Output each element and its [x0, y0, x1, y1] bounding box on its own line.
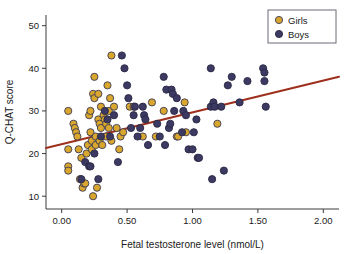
data-point[interactable] [91, 150, 98, 157]
data-point[interactable] [189, 146, 196, 153]
data-point[interactable] [214, 120, 221, 127]
data-point[interactable] [104, 116, 111, 123]
data-point[interactable] [156, 133, 163, 140]
data-point[interactable] [65, 107, 72, 114]
y-tick-label: 50 [28, 20, 39, 31]
data-point[interactable] [261, 77, 268, 84]
data-point[interactable] [120, 129, 127, 136]
data-point[interactable] [65, 167, 72, 174]
data-point[interactable] [75, 146, 82, 153]
legend-label-boys: Boys [288, 29, 309, 40]
data-point[interactable] [182, 112, 189, 119]
data-point[interactable] [95, 176, 102, 183]
data-point[interactable] [110, 103, 117, 110]
data-point[interactable] [108, 52, 115, 59]
legend-marker-girls[interactable] [275, 16, 282, 23]
data-point[interactable] [224, 82, 231, 89]
x-tick-label: 2.00 [314, 215, 333, 226]
data-point[interactable] [87, 107, 94, 114]
y-tick-label: 30 [28, 105, 39, 116]
data-point[interactable] [87, 163, 94, 170]
data-point[interactable] [142, 116, 149, 123]
data-point[interactable] [78, 176, 85, 183]
data-point[interactable] [137, 124, 144, 131]
data-point[interactable] [95, 90, 102, 97]
data-point[interactable] [178, 129, 185, 136]
legend-label-girls: Girls [288, 15, 308, 26]
y-tick-label: 20 [28, 148, 39, 159]
data-point[interactable] [130, 112, 137, 119]
legend: GirlsBoys [268, 10, 336, 43]
data-point[interactable] [91, 73, 98, 80]
data-point[interactable] [74, 133, 81, 140]
data-point[interactable] [97, 133, 104, 140]
data-point[interactable] [104, 82, 111, 89]
data-point[interactable] [161, 141, 168, 148]
data-point[interactable] [105, 124, 112, 131]
y-axis-title: Q-CHAT score [4, 79, 15, 144]
data-point[interactable] [139, 103, 146, 110]
data-point[interactable] [236, 99, 243, 106]
data-point[interactable] [160, 107, 167, 114]
data-point[interactable] [65, 146, 72, 153]
data-point[interactable] [99, 141, 106, 148]
x-tick-label: 0.00 [52, 215, 71, 226]
data-point[interactable] [207, 65, 214, 72]
data-point[interactable] [110, 112, 117, 119]
data-point[interactable] [125, 95, 132, 102]
data-point[interactable] [118, 52, 125, 59]
data-point[interactable] [167, 120, 174, 127]
data-point[interactable] [190, 129, 197, 136]
data-point[interactable] [154, 120, 161, 127]
data-point[interactable] [127, 124, 134, 131]
data-point[interactable] [228, 73, 235, 80]
data-point[interactable] [121, 65, 128, 72]
y-tick-label: 40 [28, 63, 39, 74]
data-point[interactable] [244, 77, 251, 84]
data-point[interactable] [209, 176, 216, 183]
data-point[interactable] [116, 146, 123, 153]
x-tick-label: 1.00 [183, 215, 202, 226]
y-tick-label: 10 [28, 191, 39, 202]
data-point[interactable] [195, 154, 202, 161]
data-point[interactable] [93, 184, 100, 191]
data-point[interactable] [181, 99, 188, 106]
data-point[interactable] [160, 73, 167, 80]
data-point[interactable] [113, 124, 120, 131]
data-point[interactable] [261, 69, 268, 76]
data-point[interactable] [106, 95, 113, 102]
data-point[interactable] [134, 133, 141, 140]
chart-canvas: 10203040500.000.501.001.502.00Fetal test… [0, 0, 350, 254]
x-axis-title: Fetal testosterone level (nmol/L) [121, 239, 264, 250]
data-point[interactable] [114, 158, 121, 165]
data-point[interactable] [148, 99, 155, 106]
data-point[interactable] [193, 116, 200, 123]
data-point[interactable] [144, 141, 151, 148]
data-point[interactable] [131, 103, 138, 110]
data-point[interactable] [101, 107, 108, 114]
x-tick-label: 1.50 [249, 215, 268, 226]
data-point[interactable] [171, 107, 178, 114]
data-point[interactable] [218, 103, 225, 110]
data-point[interactable] [262, 103, 269, 110]
x-tick-label: 0.50 [118, 215, 137, 226]
data-point[interactable] [173, 95, 180, 102]
data-point[interactable] [89, 193, 96, 200]
data-point[interactable] [123, 82, 130, 89]
data-point[interactable] [106, 133, 113, 140]
legend-marker-boys[interactable] [275, 30, 282, 37]
data-point[interactable] [220, 167, 227, 174]
scatter-chart: 10203040500.000.501.001.502.00Fetal test… [0, 0, 350, 254]
